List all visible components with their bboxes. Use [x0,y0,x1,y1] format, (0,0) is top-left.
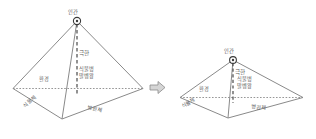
left-pyramid-axis-label: 극한 [79,50,89,57]
left-pyramid-apex-dot [76,20,78,22]
left-pyramid [13,17,143,119]
left-pyramid-environment-label: 환경 [39,76,49,83]
left-pyramid-edge-front [62,21,77,119]
left-pyramid-center-label: 식물병 말벵왕 [79,66,94,80]
left-pyramid-apex-label: 인간 [68,9,78,16]
right-pyramid-apex-label: 인간 [224,48,234,55]
right-pyramid-center-label: 식물병 말벵왕 [237,76,252,90]
left-pyramid-base-edge-right [62,89,143,120]
right-pyramid-axis-label: 극한 [235,69,245,76]
right-pyramid-apex-dot [232,59,234,61]
disease-pyramid-diagram [0,0,316,139]
transition-arrow [150,82,165,94]
right-pyramid-edge-front [228,60,233,118]
right-pyramid-environment-label: 환경 [199,86,209,93]
left-pyramid-base-edge-left [13,89,62,120]
